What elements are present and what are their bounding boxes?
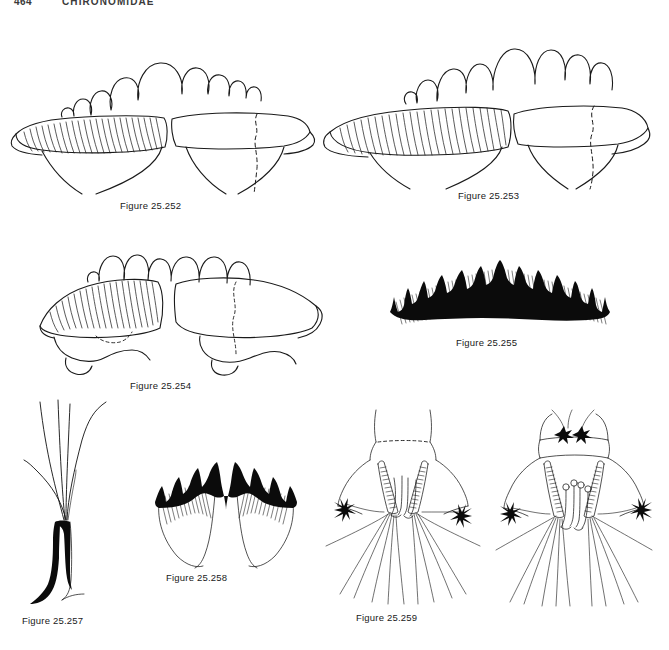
caption-25-253: Figure 25.253 — [458, 190, 519, 201]
figure-25-252 — [0, 14, 320, 194]
figure-25-256 — [10, 398, 150, 606]
figure-25-259 — [486, 408, 666, 606]
caption-25-256: Figure 25.257 — [22, 615, 83, 626]
caption-25-254: Figure 25.254 — [130, 380, 191, 391]
running-head: 464 CHIRONOMIDAE — [0, 0, 669, 10]
running-head-title: CHIRONOMIDAE — [62, 0, 155, 7]
figure-25-258 — [312, 408, 502, 606]
folio-number: 464 — [14, 0, 32, 7]
plate-page: 464 CHIRONOMIDAE — [0, 0, 669, 650]
figure-25-257 — [145, 458, 305, 568]
figure-25-253 — [310, 14, 650, 189]
figure-25-255 — [382, 252, 618, 334]
caption-25-257: Figure 25.258 — [166, 572, 227, 583]
figure-25-254 — [40, 236, 340, 376]
caption-25-255: Figure 25.255 — [456, 337, 517, 348]
caption-25-252: Figure 25.252 — [120, 200, 181, 211]
caption-25-258: Figure 25.259 — [356, 612, 417, 623]
